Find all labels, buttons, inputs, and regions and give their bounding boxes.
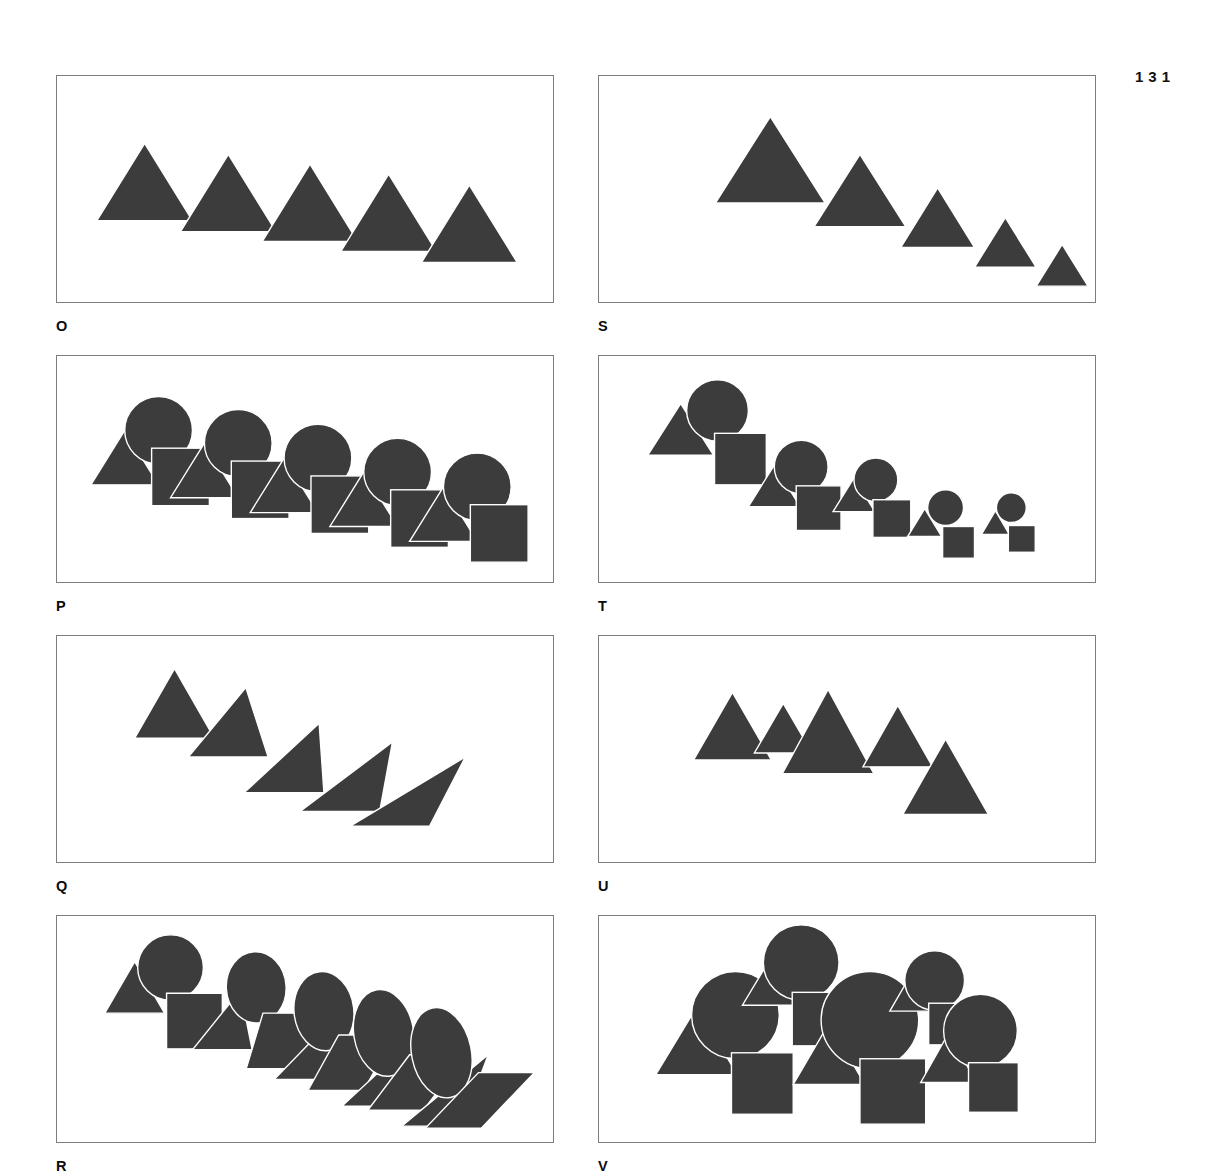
square-shape	[796, 486, 841, 531]
square-shape	[873, 500, 911, 538]
panel-label-p: P	[56, 598, 66, 614]
circle-shape	[687, 380, 749, 441]
shape-canvas-r	[57, 916, 553, 1142]
square-shape	[731, 1053, 793, 1114]
square-shape	[969, 1063, 1019, 1113]
shape-canvas-o	[57, 76, 553, 302]
panel-frame-r	[56, 915, 554, 1143]
triangle-shape	[1036, 245, 1088, 287]
triangle-shape	[97, 143, 193, 220]
shape-canvas-u	[599, 636, 1095, 862]
shape-canvas-q	[57, 636, 553, 862]
square-shape	[860, 1059, 926, 1124]
circle-shape	[763, 925, 839, 1000]
triangle-shape	[814, 154, 906, 226]
triangle-shape	[974, 218, 1036, 268]
triangle-shape	[716, 117, 826, 203]
circle-shape	[854, 458, 898, 502]
panel-label-u: U	[598, 878, 609, 894]
circle-shape	[996, 493, 1026, 523]
panel-frame-s	[598, 75, 1096, 303]
panel-frame-t	[598, 355, 1096, 583]
circle-shape	[928, 490, 964, 526]
panel-frame-v	[598, 915, 1096, 1143]
shape-canvas-s	[599, 76, 1095, 302]
shape-canvas-p	[57, 356, 553, 582]
square-shape	[715, 433, 767, 485]
square-shape	[470, 505, 528, 562]
panel-label-s: S	[598, 318, 608, 334]
panel-label-r: R	[56, 1158, 67, 1174]
triangle-shape	[262, 164, 358, 241]
square-shape	[943, 526, 975, 558]
panel-frame-q	[56, 635, 554, 863]
circle-shape	[944, 994, 1018, 1067]
square-shape	[1008, 526, 1035, 553]
triangle-shape	[422, 185, 518, 262]
panel-frame-p	[56, 355, 554, 583]
circle-shape	[905, 951, 965, 1010]
ellipse-shape	[138, 935, 204, 1000]
triangle-shape	[135, 669, 215, 738]
panel-frame-o	[56, 75, 554, 303]
triangle-shape	[341, 174, 437, 251]
panel-label-q: Q	[56, 878, 68, 894]
shape-canvas-t	[599, 356, 1095, 582]
panel-label-v: V	[598, 1158, 608, 1174]
page-number: 131	[1135, 68, 1175, 85]
panel-frame-u	[598, 635, 1096, 863]
triangle-shape	[181, 154, 277, 231]
triangle-shape	[863, 705, 933, 766]
shape-canvas-v	[599, 916, 1095, 1142]
panel-label-t: T	[598, 598, 607, 614]
panel-label-o: O	[56, 318, 68, 334]
triangle-shape	[901, 188, 975, 247]
